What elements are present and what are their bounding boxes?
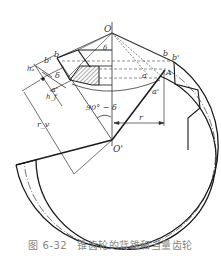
label-center: O'	[113, 144, 123, 154]
figure-number: 图 6-32	[28, 240, 67, 251]
back-cone-right	[112, 70, 165, 140]
label-delta-left: δ	[55, 71, 60, 80]
label-b-right: b	[163, 49, 168, 58]
label-b-left: b	[54, 50, 59, 59]
label-r: r	[139, 113, 144, 122]
bevel-gear-diagram: O δ b b' A a a' b' b δ a' hₐ h_f 90° − δ…	[0, 0, 221, 258]
label-delta-top: δ	[103, 44, 107, 52]
label-hf: h_f	[46, 93, 58, 101]
cone-lines	[57, 33, 174, 77]
equivalent-gear-arcs	[16, 62, 218, 249]
label-a-prime-right: a'	[152, 87, 159, 96]
label-a-right: a	[142, 71, 147, 80]
label-apex: O	[104, 24, 112, 34]
label-b-prime-left: b'	[44, 56, 51, 65]
label-b-prime-right: b'	[172, 53, 179, 62]
label-rv: r_v	[37, 120, 50, 129]
label-ha: hₐ	[27, 65, 35, 73]
figure-caption: 图 6-32锥齿轮的背锥和当量齿轮	[0, 237, 221, 252]
angle-arc	[97, 115, 111, 118]
figure-title: 锥齿轮的背锥和当量齿轮	[77, 240, 193, 251]
label-angle: 90° − δ	[86, 103, 117, 112]
label-A: A	[165, 68, 172, 77]
